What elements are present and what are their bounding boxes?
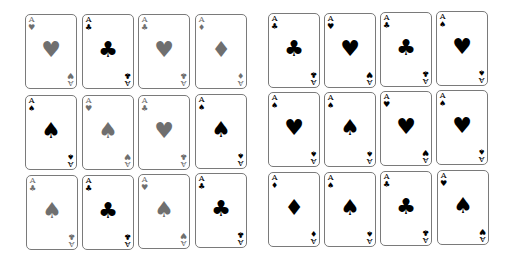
center-suit-icon: ♣ bbox=[83, 37, 133, 63]
card-corner-index: A♠ bbox=[327, 174, 334, 190]
center-suit-icon: ♠ bbox=[438, 193, 488, 219]
card-rank: A bbox=[478, 76, 485, 84]
playing-card-left-7[interactable]: A♣♥A♣ bbox=[138, 95, 190, 170]
card-rank: A bbox=[180, 239, 187, 247]
suit-icon: ♦ bbox=[198, 24, 205, 32]
card-corner-index: A♠ bbox=[366, 229, 373, 245]
playing-card-right-5[interactable]: A♠♥A♠ bbox=[268, 92, 320, 167]
playing-card-right-7[interactable]: A♥♥A♥ bbox=[380, 91, 432, 166]
playing-card-left-4[interactable]: A♦♦A♦ bbox=[195, 14, 247, 89]
card-corner-index: A♣ bbox=[422, 228, 429, 244]
playing-card-left-5[interactable]: A♠♠A♠ bbox=[25, 95, 77, 170]
card-rank: A bbox=[310, 78, 317, 86]
card-rank: A bbox=[422, 77, 429, 85]
card-rank: A bbox=[479, 235, 486, 243]
card-corner-index: A♥ bbox=[422, 148, 429, 164]
center-suit-icon: ♠ bbox=[83, 118, 133, 144]
center-suit-icon: ♣ bbox=[196, 196, 246, 222]
playing-card-right-4[interactable]: A♠♥A♠ bbox=[436, 11, 488, 86]
playing-card-left-1[interactable]: A♥♥A♥ bbox=[25, 14, 77, 89]
suit-icon: ♣ bbox=[29, 185, 36, 193]
card-rank: A bbox=[124, 79, 131, 87]
center-suit-icon: ♣ bbox=[381, 35, 431, 61]
playing-card-left-3[interactable]: A♣♥A♣ bbox=[138, 14, 190, 89]
center-suit-icon: ♥ bbox=[269, 115, 319, 141]
center-suit-icon: ♣ bbox=[381, 194, 431, 220]
suit-icon: ♠ bbox=[237, 151, 244, 159]
suit-icon: ♠ bbox=[271, 102, 278, 110]
card-corner-index: A♦ bbox=[198, 16, 205, 32]
card-rank: A bbox=[237, 79, 244, 87]
suit-icon: ♠ bbox=[198, 104, 205, 112]
suit-icon: ♣ bbox=[422, 228, 429, 236]
suit-icon: ♣ bbox=[422, 69, 429, 77]
playing-card-left-8[interactable]: A♠♠A♠ bbox=[195, 94, 247, 169]
card-corner-index: A♠ bbox=[28, 97, 35, 113]
card-corner-index: A♣ bbox=[180, 71, 187, 87]
playing-card-right-12[interactable]: A♥♠A♥ bbox=[437, 170, 489, 245]
suit-icon: ♠ bbox=[439, 21, 446, 29]
suit-icon: ♣ bbox=[383, 181, 390, 189]
card-corner-index: A♥ bbox=[327, 15, 334, 31]
card-corner-index: A♠ bbox=[67, 152, 74, 168]
suit-icon: ♦ bbox=[237, 71, 244, 79]
card-corner-index: A♥ bbox=[67, 71, 74, 87]
playing-card-right-3[interactable]: A♣♣A♣ bbox=[380, 12, 432, 87]
card-rank: A bbox=[124, 160, 131, 168]
playing-card-right-8[interactable]: A♠♥A♠ bbox=[436, 90, 488, 165]
card-rank: A bbox=[478, 155, 485, 163]
card-corner-index: A♠ bbox=[478, 147, 485, 163]
card-corner-index: A♦ bbox=[271, 174, 278, 190]
playing-card-right-1[interactable]: A♣♣A♣ bbox=[268, 13, 320, 88]
playing-card-right-2[interactable]: A♥♥A♥ bbox=[324, 13, 376, 88]
suit-icon: ♠ bbox=[366, 149, 373, 157]
playing-card-left-6[interactable]: A♥♠A♥ bbox=[82, 95, 134, 170]
suit-icon: ♠ bbox=[478, 147, 485, 155]
center-suit-icon: ♣ bbox=[269, 36, 319, 62]
playing-card-left-12[interactable]: A♣♣A♣ bbox=[195, 173, 247, 248]
suit-icon: ♦ bbox=[310, 229, 317, 237]
center-suit-icon: ♥ bbox=[139, 37, 189, 63]
playing-card-left-10[interactable]: A♣♣A♣ bbox=[82, 175, 134, 250]
card-corner-index: A♥ bbox=[141, 176, 148, 192]
suit-icon: ♥ bbox=[383, 101, 390, 109]
card-corner-index: A♣ bbox=[141, 16, 148, 32]
card-corner-index: A♠ bbox=[237, 151, 244, 167]
playing-card-right-9[interactable]: A♦♦A♦ bbox=[268, 172, 320, 247]
suit-icon: ♥ bbox=[327, 23, 334, 31]
card-corner-index: A♠ bbox=[310, 149, 317, 165]
card-corner-index: A♠ bbox=[198, 96, 205, 112]
card-corner-index: A♠ bbox=[439, 92, 446, 108]
playing-card-left-9[interactable]: A♣♠A♣ bbox=[26, 175, 78, 250]
suit-icon: ♣ bbox=[141, 105, 148, 113]
card-corner-index: A♥ bbox=[180, 231, 187, 247]
card-corner-index: A♣ bbox=[85, 177, 92, 193]
playing-card-right-6[interactable]: A♠♠A♠ bbox=[324, 92, 376, 167]
suit-icon: ♣ bbox=[124, 71, 131, 79]
playing-card-right-10[interactable]: A♠♠A♠ bbox=[324, 172, 376, 247]
suit-icon: ♠ bbox=[28, 105, 35, 113]
card-corner-index: A♥ bbox=[479, 227, 486, 243]
suit-icon: ♥ bbox=[440, 180, 447, 188]
center-suit-icon: ♠ bbox=[325, 195, 375, 221]
suit-icon: ♠ bbox=[327, 182, 334, 190]
suit-icon: ♣ bbox=[198, 183, 205, 191]
suit-icon: ♣ bbox=[180, 71, 187, 79]
card-corner-index: A♠ bbox=[271, 94, 278, 110]
suit-icon: ♥ bbox=[422, 148, 429, 156]
suit-icon: ♣ bbox=[271, 23, 278, 31]
center-suit-icon: ♦ bbox=[196, 37, 246, 63]
suit-icon: ♠ bbox=[439, 100, 446, 108]
suit-icon: ♣ bbox=[141, 24, 148, 32]
suit-icon: ♥ bbox=[124, 152, 131, 160]
center-suit-icon: ♥ bbox=[139, 118, 189, 144]
center-suit-icon: ♠ bbox=[196, 117, 246, 143]
card-corner-index: A♥ bbox=[85, 97, 92, 113]
suit-icon: ♥ bbox=[479, 227, 486, 235]
card-corner-index: A♥ bbox=[124, 152, 131, 168]
center-suit-icon: ♠ bbox=[27, 198, 77, 224]
card-rank: A bbox=[237, 159, 244, 167]
playing-card-left-11[interactable]: A♥♠A♥ bbox=[138, 174, 190, 249]
playing-card-right-11[interactable]: A♣♣A♣ bbox=[380, 171, 432, 246]
playing-card-left-2[interactable]: A♣♣A♣ bbox=[82, 14, 134, 89]
